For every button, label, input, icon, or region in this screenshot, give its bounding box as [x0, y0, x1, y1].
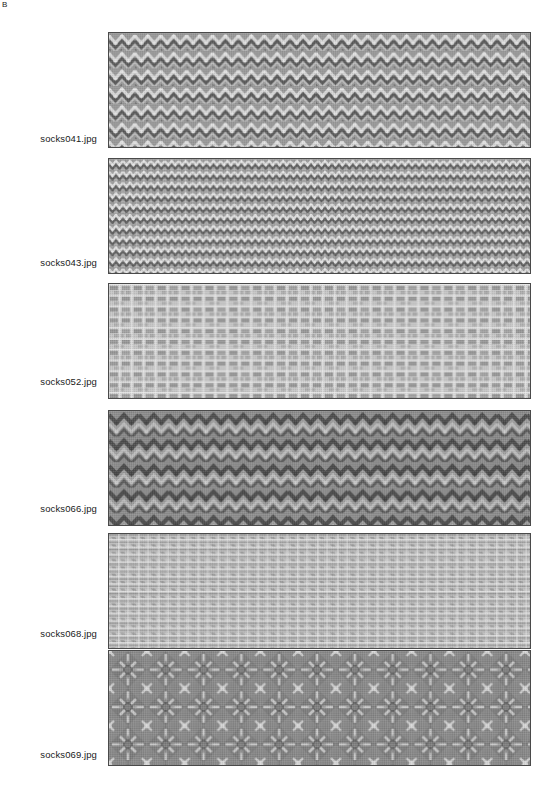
- texture-strip-label: socks041.jpg: [0, 133, 97, 145]
- texture-strip-row: socks043.jpg: [0, 158, 549, 274]
- panel-label-letter: B: [2, 0, 7, 10]
- texture-pattern-light-blocky-houndstooth-knit: [109, 284, 530, 398]
- texture-pattern-light-banded-crosshatch-knit: [109, 534, 530, 648]
- texture-swatch-socks069: [108, 650, 531, 766]
- texture-pattern-dark-zigzag-diamond-knit: [109, 411, 530, 525]
- texture-swatch-socks041: [108, 32, 531, 148]
- texture-pattern-dark-star-diamond-jacquard-knit: [109, 651, 530, 765]
- texture-strip-label: socks043.jpg: [0, 257, 97, 269]
- texture-strip-row: socks069.jpg: [0, 650, 549, 766]
- texture-strip-row: socks041.jpg: [0, 32, 549, 148]
- figure-panel: B socks041.jpg: [0, 0, 549, 790]
- texture-strip-row: socks066.jpg: [0, 410, 549, 526]
- texture-strip-label: socks069.jpg: [0, 749, 97, 761]
- texture-strip-label: socks066.jpg: [0, 503, 97, 515]
- texture-strip-row: socks068.jpg: [0, 533, 549, 649]
- texture-pattern-fine-diagonal-rib-knit: [109, 159, 530, 273]
- texture-strip-row: socks052.jpg: [0, 283, 549, 399]
- texture-swatch-socks043: [108, 158, 531, 274]
- texture-pattern-chevron-zigzag-knit: [109, 33, 530, 147]
- texture-swatch-socks066: [108, 410, 531, 526]
- texture-strip-label: socks068.jpg: [0, 628, 97, 640]
- texture-swatch-socks068: [108, 533, 531, 649]
- texture-strip-label: socks052.jpg: [0, 376, 97, 388]
- texture-swatch-socks052: [108, 283, 531, 399]
